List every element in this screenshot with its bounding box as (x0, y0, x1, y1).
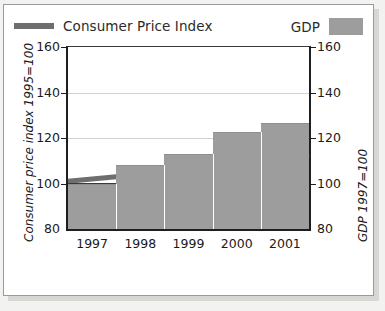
tickmark-left-100 (61, 184, 66, 185)
bar-2001 (261, 123, 309, 229)
bar-separator (116, 184, 117, 230)
y-tick-right-120: 120 (317, 130, 351, 145)
tickmark-right-140 (311, 93, 316, 94)
y-axis-title-left: Consumer price index 1995=100 (22, 43, 36, 242)
tickmark-right-120 (311, 138, 316, 139)
bar-1997 (68, 184, 116, 230)
tickmark-right-160 (311, 47, 316, 48)
y-tick-right-140: 140 (317, 85, 351, 100)
gridline-140 (68, 93, 309, 94)
chart-card: Consumer Price Index GDP 160160140140120… (3, 4, 374, 296)
plot-area (66, 46, 311, 231)
bar-separator (164, 165, 165, 229)
bar-separator (213, 154, 214, 229)
bar-1998 (116, 165, 164, 229)
y-tick-right-80: 80 (317, 221, 351, 236)
y-axis-title-right: GDP 1997=100 (356, 149, 370, 242)
x-tick-1998: 1998 (116, 236, 164, 251)
x-tick-2001: 2001 (261, 236, 309, 251)
tickmark-left-140 (61, 93, 66, 94)
y-tick-right-100: 100 (317, 176, 351, 191)
chart-figure: Consumer Price Index GDP 160160140140120… (0, 0, 385, 311)
x-tick-2000: 2000 (213, 236, 261, 251)
bar-separator (261, 132, 262, 229)
tickmark-left-120 (61, 138, 66, 139)
bar-2000 (213, 132, 261, 229)
tickmark-left-160 (61, 47, 66, 48)
tickmark-right-100 (311, 184, 316, 185)
x-tick-1999: 1999 (164, 236, 212, 251)
y-tick-right-160: 160 (317, 39, 351, 54)
bar-1999 (164, 154, 212, 229)
x-tick-1997: 1997 (68, 236, 116, 251)
plot-wrapper: 1601601401401201201001008080199719981999… (4, 5, 375, 297)
